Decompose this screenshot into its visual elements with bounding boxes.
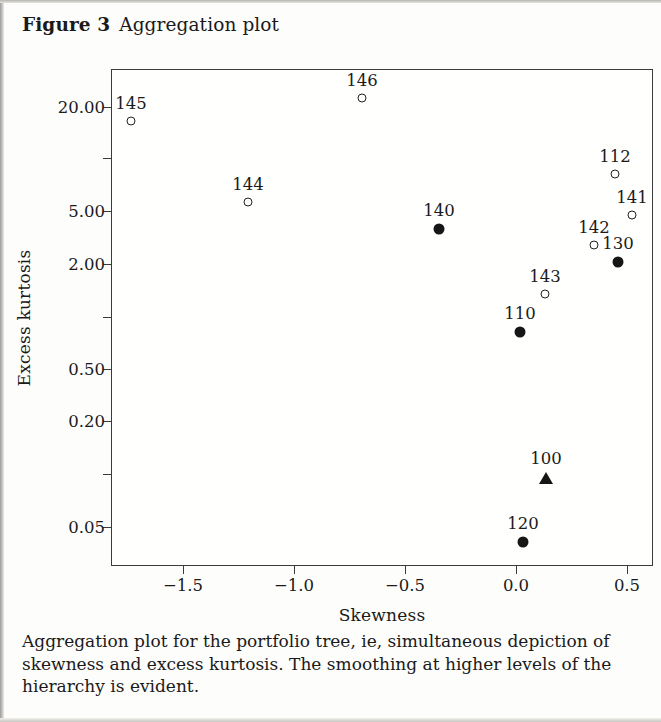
data-point-label: 120 bbox=[507, 514, 539, 533]
data-point: 112 bbox=[611, 170, 620, 179]
data-point-label: 100 bbox=[530, 449, 562, 468]
data-point-label: 141 bbox=[616, 188, 648, 207]
open-circle-marker-icon bbox=[628, 211, 637, 220]
open-circle-marker-icon bbox=[590, 241, 599, 250]
y-axis-tick-label: 0.20 bbox=[68, 412, 105, 431]
figure-title-text: Aggregation plot bbox=[119, 14, 279, 35]
data-point-label: 143 bbox=[529, 267, 561, 286]
x-axis-label-text: Skewness bbox=[339, 605, 426, 625]
data-point: 146 bbox=[358, 94, 367, 103]
x-axis-tick-label: −0.5 bbox=[385, 576, 425, 595]
y-axis-tick-label: 5.00 bbox=[68, 202, 105, 221]
figure-page: Figure 3Aggregation plot Excess kurtosis… bbox=[0, 0, 661, 722]
open-circle-marker-icon bbox=[358, 94, 367, 103]
data-point: 140 bbox=[434, 224, 445, 235]
x-axis-tick bbox=[294, 565, 295, 574]
y-axis-tick bbox=[103, 158, 112, 159]
figure-title: Figure 3Aggregation plot bbox=[22, 14, 279, 35]
filled-circle-marker-icon bbox=[518, 537, 529, 548]
y-axis-tick-label: 0.05 bbox=[68, 518, 105, 537]
data-point: 130 bbox=[613, 257, 624, 268]
data-point: 141 bbox=[628, 211, 637, 220]
open-circle-marker-icon bbox=[541, 290, 550, 299]
x-axis-tick-label: 0.0 bbox=[503, 576, 529, 595]
x-axis-tick bbox=[183, 565, 184, 574]
plot-area: 20.005.002.000.500.200.05 −1.5−1.0−0.50.… bbox=[111, 69, 653, 566]
page-edge-top bbox=[0, 0, 661, 3]
filled-triangle-marker-icon bbox=[539, 472, 553, 484]
data-point: 110 bbox=[515, 327, 526, 338]
figure-caption: Aggregation plot for the portfolio tree,… bbox=[22, 630, 640, 698]
page-edge-bottom bbox=[0, 718, 661, 722]
x-axis-tick bbox=[627, 565, 628, 574]
y-axis-label-text: Excess kurtosis bbox=[14, 249, 34, 386]
x-axis-tick bbox=[516, 565, 517, 574]
x-axis-tick-label: 0.5 bbox=[614, 576, 640, 595]
data-point-label: 144 bbox=[232, 175, 264, 194]
x-axis-label: Skewness bbox=[111, 605, 653, 625]
filled-circle-marker-icon bbox=[434, 224, 445, 235]
open-circle-marker-icon bbox=[127, 117, 136, 126]
y-axis-label: Excess kurtosis bbox=[13, 69, 35, 566]
data-point-label: 130 bbox=[602, 234, 634, 253]
data-point-label: 145 bbox=[115, 94, 147, 113]
y-axis-tick-label: 2.00 bbox=[68, 255, 105, 274]
x-axis-tick-label: −1.5 bbox=[163, 576, 203, 595]
data-point-label: 140 bbox=[423, 201, 455, 220]
data-point-label: 110 bbox=[504, 304, 536, 323]
y-axis-tick-label: 20.00 bbox=[58, 98, 105, 117]
y-axis-tick bbox=[103, 317, 112, 318]
data-point: 142 bbox=[590, 241, 599, 250]
scatter-chart: Excess kurtosis 20.005.002.000.500.200.0… bbox=[0, 52, 661, 625]
x-axis-tick-label: −1.0 bbox=[274, 576, 314, 595]
figure-number: Figure 3 bbox=[22, 14, 110, 35]
filled-circle-marker-icon bbox=[515, 327, 526, 338]
data-point: 144 bbox=[244, 198, 253, 207]
data-point: 143 bbox=[541, 290, 550, 299]
x-axis-tick bbox=[405, 565, 406, 574]
data-point-label: 146 bbox=[346, 71, 378, 90]
y-axis-tick bbox=[103, 474, 112, 475]
data-point: 145 bbox=[127, 117, 136, 126]
open-circle-marker-icon bbox=[244, 198, 253, 207]
open-circle-marker-icon bbox=[611, 170, 620, 179]
data-point: 100 bbox=[539, 472, 553, 484]
y-axis-tick-label: 0.50 bbox=[68, 360, 105, 379]
data-point: 120 bbox=[518, 537, 529, 548]
data-point-label: 112 bbox=[599, 147, 631, 166]
filled-circle-marker-icon bbox=[613, 257, 624, 268]
